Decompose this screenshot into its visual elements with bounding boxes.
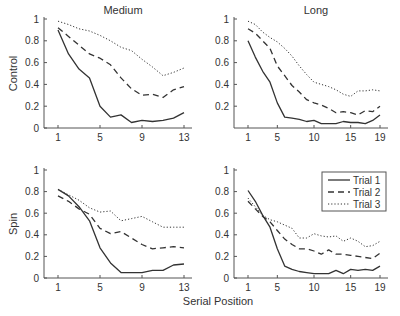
x-axis-label: Serial Position <box>183 295 253 307</box>
series-trial-1 <box>58 189 184 272</box>
y-tick-label: 1 <box>33 165 39 176</box>
y-tick-label: 0.6 <box>215 208 229 219</box>
legend-item-label: Trial 2 <box>353 187 381 198</box>
y-tick-label: 0.2 <box>215 251 229 262</box>
x-tick-label: 15 <box>345 282 357 293</box>
x-tick-label: 1 <box>55 282 61 293</box>
legend-item-label: Trial 3 <box>353 199 381 210</box>
y-tick-label: 1 <box>33 14 39 25</box>
series-trial-2 <box>58 28 184 98</box>
y-tick-label: 0.6 <box>25 57 39 68</box>
x-tick-label: 9 <box>139 282 145 293</box>
x-tick-label: 10 <box>308 132 320 143</box>
y-tick-label: 0.4 <box>25 229 39 240</box>
y-tick-label: 0.6 <box>215 57 229 68</box>
figure: 00.20.40.60.8115913MediumControl0.20.40.… <box>0 0 400 316</box>
y-tick-label: 0.8 <box>215 35 229 46</box>
y-tick-label: 0.2 <box>215 101 229 112</box>
x-tick-label: 5 <box>275 282 281 293</box>
x-tick-label: 5 <box>97 282 103 293</box>
panel-title: Long <box>304 4 328 16</box>
y-tick-label: 0 <box>33 123 39 134</box>
y-tick-label: 0.6 <box>25 208 39 219</box>
x-tick-label: 13 <box>178 132 190 143</box>
series-trial-1 <box>248 41 380 124</box>
y-tick-label: 0.8 <box>215 186 229 197</box>
panel-bottom-left: 00.20.40.60.8115913Spin <box>7 165 192 294</box>
x-tick-label: 19 <box>374 132 386 143</box>
panel-top-left: 00.20.40.60.8115913MediumControl <box>7 4 192 143</box>
panel-title: Medium <box>103 4 142 16</box>
x-tick-label: 15 <box>345 132 357 143</box>
y-tick-label: 0.4 <box>215 79 229 90</box>
y-tick-label: 0.8 <box>25 186 39 197</box>
series-trial-3 <box>58 21 184 75</box>
x-tick-label: 5 <box>275 132 281 143</box>
y-tick-label: 0.4 <box>25 79 39 90</box>
x-tick-label: 1 <box>55 132 61 143</box>
x-tick-label: 10 <box>308 282 320 293</box>
y-tick-label: 0.2 <box>25 251 39 262</box>
panel-top-right: 0.20.40.60.8115101519Long <box>215 4 388 143</box>
series-trial-2 <box>248 29 380 115</box>
x-tick-label: 9 <box>139 132 145 143</box>
x-tick-label: 5 <box>97 132 103 143</box>
y-tick-label: 0.8 <box>25 35 39 46</box>
y-tick-label: 0.2 <box>25 101 39 112</box>
x-tick-label: 19 <box>374 282 386 293</box>
y-tick-label: 0 <box>33 273 39 284</box>
x-tick-label: 1 <box>245 282 251 293</box>
series-trial-3 <box>58 189 184 227</box>
x-tick-label: 1 <box>245 132 251 143</box>
y-tick-label: 1 <box>223 14 229 25</box>
y-tick-label: 0.4 <box>215 229 229 240</box>
y-tick-label: 1 <box>223 165 229 176</box>
x-tick-label: 13 <box>178 282 190 293</box>
y-axis-label: Spin <box>7 213 19 235</box>
y-tick-label: 0 <box>223 273 229 284</box>
series-trial-3 <box>248 21 380 96</box>
legend-item-label: Trial 1 <box>353 175 381 186</box>
y-axis-label: Control <box>7 56 19 91</box>
legend: Trial 1Trial 2Trial 3 <box>322 172 386 211</box>
